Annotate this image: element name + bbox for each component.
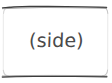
box-fill	[3, 7, 108, 77]
annotation-box-shape[interactable]	[0, 0, 112, 83]
box-edge-bottom	[2, 76, 106, 77]
diagram-canvas: (side)	[0, 0, 112, 83]
